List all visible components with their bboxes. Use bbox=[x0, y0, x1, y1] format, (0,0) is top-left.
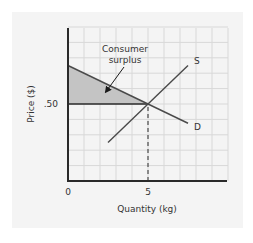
x-axis-label: Quantity (kg) bbox=[117, 204, 177, 214]
x-tick-label: 5 bbox=[145, 187, 151, 197]
y-axis-label: Price ($) bbox=[26, 85, 36, 123]
x-tick-label: 0 bbox=[65, 187, 71, 197]
supply-label: S bbox=[194, 56, 200, 66]
y-tick-labels: .50 bbox=[44, 99, 59, 109]
consumer-surplus-label: surplus bbox=[109, 55, 142, 65]
consumer-surplus-label: Consumer bbox=[102, 44, 148, 54]
x-tick-labels: 05 bbox=[65, 187, 151, 197]
y-tick-label: .50 bbox=[44, 99, 59, 109]
chart: DS 05 .50 Quantity (kg) Price ($) Consum… bbox=[0, 0, 253, 243]
demand-label: D bbox=[194, 122, 201, 132]
